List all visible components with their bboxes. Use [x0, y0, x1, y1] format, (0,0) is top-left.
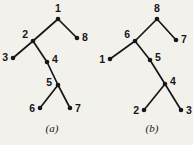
panel-caption-b: (b): [146, 122, 159, 135]
node-label-2: 2: [133, 104, 139, 116]
tree-edge: [33, 19, 58, 41]
tree-edge: [58, 19, 77, 38]
tree-edge: [40, 85, 58, 108]
tree-node-1: [56, 17, 61, 22]
tree-node-4: [45, 60, 50, 65]
tree-node-8: [75, 36, 80, 41]
node-label-8: 8: [82, 31, 88, 43]
tree-node-8: [155, 17, 160, 22]
tree-node-2: [142, 108, 147, 113]
node-label-3: 3: [2, 51, 8, 63]
node-label-5: 5: [46, 76, 52, 88]
tree-edge: [135, 41, 150, 60]
tree-edge: [58, 85, 70, 108]
tree-edge: [135, 19, 157, 41]
panel-caption-a: (a): [46, 122, 59, 135]
tree-node-1: [108, 57, 113, 62]
tree-panel-a: 18234567(a): [2, 2, 88, 135]
tree-panel-b: 86715423(b): [99, 2, 192, 135]
tree-node-3: [11, 56, 16, 61]
tree-node-6: [133, 39, 138, 44]
node-label-6: 6: [124, 28, 130, 40]
tree-node-5: [56, 83, 61, 88]
tree-node-7: [174, 38, 179, 43]
figure-container: 18234567(a)86715423(b): [0, 0, 193, 145]
edges-group-b: [110, 19, 181, 110]
tree-edge: [157, 19, 176, 40]
nodes-group-b: 86715423: [99, 2, 192, 116]
tree-node-7: [68, 106, 73, 111]
tree-edge: [33, 41, 47, 62]
tree-edge: [144, 84, 165, 110]
node-label-3: 3: [186, 104, 192, 116]
node-label-7: 7: [75, 102, 81, 114]
node-label-2: 2: [22, 28, 28, 40]
tree-node-2: [31, 39, 36, 44]
tree-node-5: [148, 58, 153, 63]
node-label-1: 1: [99, 53, 105, 65]
node-label-5: 5: [155, 51, 161, 63]
node-label-8: 8: [154, 2, 160, 14]
tree-edge: [165, 84, 181, 110]
node-label-4: 4: [52, 53, 58, 65]
tree-diagram-svg: 18234567(a)86715423(b): [0, 0, 193, 145]
node-label-6: 6: [29, 102, 35, 114]
tree-node-4: [163, 82, 168, 87]
tree-edge: [110, 41, 135, 59]
tree-node-6: [38, 106, 43, 111]
node-label-1: 1: [55, 2, 61, 14]
tree-edge: [13, 41, 33, 58]
tree-edge: [150, 60, 165, 84]
panels-layer: 18234567(a)86715423(b): [2, 2, 192, 135]
node-label-4: 4: [170, 75, 176, 87]
node-label-7: 7: [181, 33, 187, 45]
tree-node-3: [179, 108, 184, 113]
